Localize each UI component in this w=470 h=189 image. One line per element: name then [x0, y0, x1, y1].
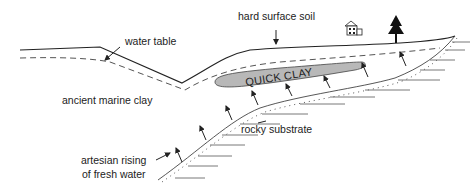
hard-surface-soil-label: hard surface soil	[238, 10, 315, 22]
water-table-label: water table	[124, 35, 177, 47]
arrow-icon	[324, 76, 330, 88]
arrow-icon	[252, 91, 258, 105]
arrow-icon	[176, 148, 182, 162]
arrow-icon	[200, 126, 206, 140]
tree-icon	[388, 15, 404, 43]
arrow-icon	[156, 153, 170, 160]
quick-clay-diagram: QUICK CLAY	[0, 0, 470, 189]
arrow-icon	[286, 84, 292, 96]
water-table-pointer	[105, 47, 120, 60]
rocky-substrate-boundary	[158, 36, 455, 180]
rocky-substrate-label: rocky substrate	[241, 123, 312, 135]
artesian-label-line1: artesian rising	[81, 154, 147, 166]
rocky-substrate-boundary-2	[162, 38, 457, 182]
arrow-icon	[226, 106, 232, 120]
house-icon	[345, 21, 362, 35]
artesian-label-line2: of fresh water	[82, 168, 146, 180]
ancient-marine-clay-label: ancient marine clay	[62, 94, 153, 106]
arrow-icon	[400, 52, 406, 66]
